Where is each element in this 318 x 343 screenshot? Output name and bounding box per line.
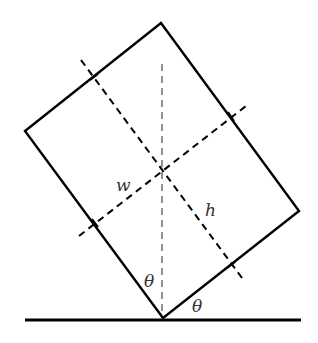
width-label: w xyxy=(116,175,131,195)
tilted-rectangle-diagram: w h θ θ xyxy=(0,0,318,343)
angle-label-left: θ xyxy=(144,271,154,291)
height-axis-line xyxy=(81,60,245,282)
angle-label-right: θ xyxy=(192,296,202,316)
height-label: h xyxy=(205,200,216,220)
